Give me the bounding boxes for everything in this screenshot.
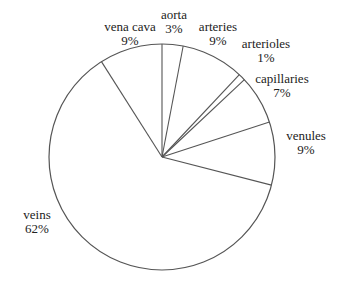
label-arteries: arteries9%: [199, 19, 237, 48]
pie-chart: aorta3%arteries9%arterioles1%capillaries…: [0, 0, 342, 287]
label-venules: venules9%: [286, 128, 326, 157]
label-arterioles: arterioles1%: [242, 36, 290, 65]
label-capillaries: capillaries7%: [255, 71, 308, 100]
pie-slices: [49, 44, 275, 270]
label-vena-cava: vena cava9%: [104, 19, 156, 48]
label-aorta: aorta3%: [161, 7, 187, 36]
label-veins: veins62%: [23, 207, 50, 236]
